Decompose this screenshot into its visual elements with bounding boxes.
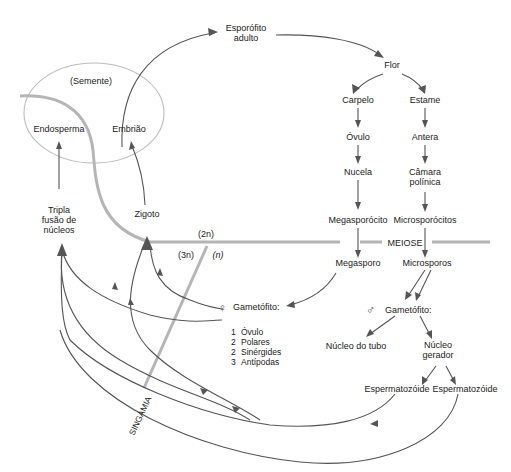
svg-text:1: 1 (231, 327, 236, 337)
label-nucleo-tubo: Núcleo do tubo (326, 341, 387, 351)
label-espermatozoide-2: Espermatozóide (432, 384, 497, 394)
label-microsporos: Microsporos (402, 258, 452, 268)
label-camara: Câmara (409, 167, 441, 177)
label-singamia: SINGAMIA (127, 395, 154, 437)
label-n: (n) (213, 250, 224, 260)
male-symbol-icon: ♂ (366, 303, 375, 317)
svg-text:Polares: Polares (241, 337, 270, 347)
label-nucela: Nucela (344, 167, 372, 177)
label-megasporo: Megasporo (335, 258, 380, 268)
svg-text:Sinérgides: Sinérgides (241, 347, 281, 357)
label-gametofito-feminino: Gametófito: (233, 302, 280, 312)
label-zigoto: Zigoto (134, 209, 159, 219)
label-ovulo: Óvulo (346, 132, 370, 142)
female-gametophyte-list: 1 Óvulo 2 Polares 2 Sinérgides 3 Antípod… (231, 327, 281, 367)
label-estame: Estame (410, 95, 441, 105)
svg-text:2: 2 (231, 337, 236, 347)
svg-text:2: 2 (231, 347, 236, 357)
label-nucleo: Núcleo (424, 340, 452, 350)
label-megasporocito: Megasporócito (328, 215, 387, 225)
label-tripla: Tripla (48, 205, 70, 215)
label-flor: Flor (384, 60, 400, 70)
label-esporofito-adulto: adulto (234, 33, 259, 43)
svg-text:Óvulo: Óvulo (241, 327, 263, 337)
label-gametofito-masculino: Gametófito: (385, 305, 432, 315)
label-semente: (Semente) (70, 76, 112, 86)
svg-text:3: 3 (231, 357, 236, 367)
label-fusao-de: fusão de (42, 215, 77, 225)
label-3n: (3n) (178, 250, 194, 260)
label-carpelo: Carpelo (342, 95, 374, 105)
label-esporofito: Esporófito (226, 23, 267, 33)
singamia-line (144, 246, 207, 388)
label-espermatozoide-1: Espermatozóide (364, 384, 429, 394)
female-symbol-icon: ♀ (218, 301, 227, 315)
label-embriao: Embrião (112, 124, 146, 134)
life-cycle-diagram: (Semente) (0, 0, 511, 472)
svg-text:Antípodas: Antípodas (241, 357, 279, 367)
label-microsporocitos: Microsporócitos (393, 215, 457, 225)
label-endosperma: Endosperma (33, 124, 84, 134)
label-camara-polinica: polínica (409, 177, 440, 187)
label-nucleo-gerador: gerador (422, 350, 453, 360)
label-meiose: MEIOSE (387, 238, 422, 248)
label-nucleos: núcleos (43, 225, 75, 235)
label-2n: (2n) (198, 229, 214, 239)
label-antera: Antera (412, 132, 439, 142)
